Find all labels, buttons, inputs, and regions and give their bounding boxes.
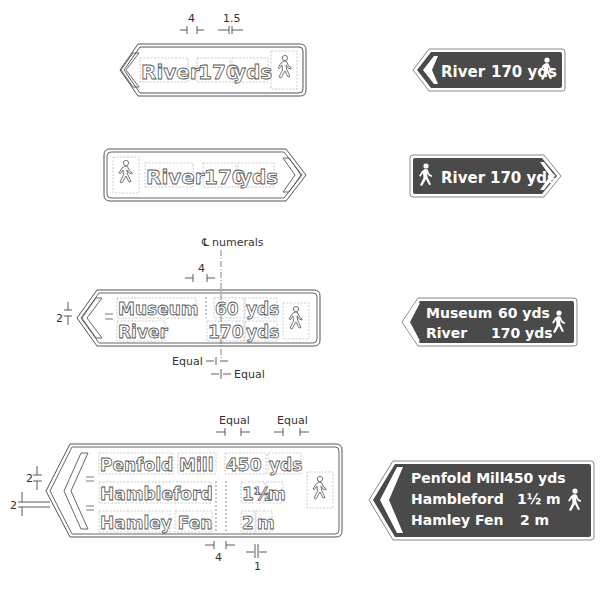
solid-sign-1: River 170 yds <box>413 49 565 91</box>
sign1-outline-diagram: River 170 yds 4 1.5 <box>120 12 306 96</box>
sign4-row1-destination: Penfold Mill <box>100 455 213 475</box>
solid-sign-2: River 170 yds <box>410 155 561 197</box>
sign3-row2-distance-value: 170 <box>208 322 244 342</box>
dim-label: 2 <box>56 312 63 325</box>
centerline-symbol: ℄ <box>201 236 209 249</box>
dim-label: 4 <box>215 551 222 564</box>
solid3-row1-distance: 60 yds <box>498 305 550 321</box>
solid4-row2-destination: Hambleford <box>411 491 504 507</box>
dim-label: 4 <box>188 12 195 25</box>
sign4-row1-distance-unit: yds <box>269 455 302 475</box>
solid3-row2-distance: 170 yds <box>491 325 553 341</box>
sign3-row1-destination: Museum <box>118 299 198 319</box>
solid-sign-4: Penfold Mill 450 yds Hambleford 1½ m Ham… <box>369 461 594 540</box>
pedestrian-icon <box>119 160 132 183</box>
sign3-row1-distance-unit: yds <box>246 299 279 319</box>
dim-label: 2 <box>10 499 17 512</box>
dim-label: Equal <box>172 355 203 368</box>
sign2-distance-unit: yds <box>239 165 278 189</box>
sign3-outline-diagram: Museum River 60 170 yds yds ℄ numerals 4… <box>56 236 320 381</box>
dim-label: 1.5 <box>223 12 241 25</box>
pedestrian-icon <box>289 306 302 329</box>
sign4-row3-distance-unit: m <box>257 513 275 533</box>
dim-label: 4 <box>198 262 205 275</box>
sign3-row2-distance-unit: yds <box>246 322 279 342</box>
sign3-row1-distance-value: 60 <box>215 299 239 319</box>
sign2-outline-diagram: River 170 yds <box>104 149 306 201</box>
centerline-label: numerals <box>212 236 264 249</box>
sign4-row3-distance-value: 2 <box>242 513 254 533</box>
dim-label: Equal <box>234 368 265 381</box>
solid4-row3-distance: 2 m <box>520 512 549 528</box>
solid3-row1-destination: Museum <box>426 305 492 321</box>
solid3-row2-destination: River <box>426 325 467 341</box>
sign1-distance-unit: yds <box>233 60 272 84</box>
dim-label: Equal <box>219 414 250 427</box>
solid4-row3-destination: Hamley Fen <box>411 512 504 528</box>
dim-label: 2 <box>26 472 33 485</box>
sign1-destination: River <box>141 60 200 84</box>
solid4-row1-destination: Penfold Mill <box>411 470 504 486</box>
solid1-destination: River <box>441 63 486 81</box>
pedestrian-icon <box>313 476 326 499</box>
solid2-destination: River <box>441 169 486 187</box>
diagram-canvas: River 170 yds 4 1.5 River 170 yds <box>0 0 610 593</box>
sign2-destination: River <box>146 165 205 189</box>
solid-sign-3: Museum 60 yds River 170 yds <box>402 298 577 346</box>
sign4-row1-distance-value: 450 <box>226 455 262 475</box>
sign4-row3-destination: Hamley Fen <box>100 513 212 533</box>
sign4-outline-diagram: Penfold Mill Hambleford Hamley Fen 450 y… <box>10 414 342 573</box>
sign3-row2-destination: River <box>118 322 169 342</box>
sign4-row2-destination: Hambleford <box>100 484 213 504</box>
dim-label: Equal <box>277 414 308 427</box>
dim-label: 1 <box>254 560 261 573</box>
solid2-distance: 170 yds <box>490 169 556 187</box>
solid4-row1-distance: 450 yds <box>504 470 566 486</box>
pedestrian-icon <box>278 55 291 78</box>
sign4-row2-distance-unit: m <box>268 484 286 504</box>
solid4-row2-distance: 1½ m <box>517 491 561 507</box>
